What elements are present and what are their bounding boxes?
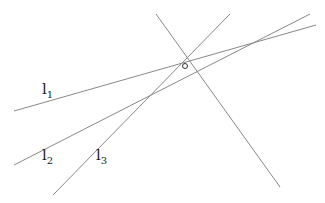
label-l2-sub: 2 xyxy=(47,155,53,166)
point-marker xyxy=(183,64,188,69)
line-l3 xyxy=(53,14,230,195)
line-l1 xyxy=(14,25,316,111)
label-l2: l2 xyxy=(42,146,53,166)
diagram-canvas: l1 l2 l3 xyxy=(0,0,325,203)
label-l3: l3 xyxy=(96,146,107,166)
label-l3-sub: 3 xyxy=(101,155,107,166)
line-l4 xyxy=(156,14,280,187)
label-l1-sub: 1 xyxy=(47,89,53,100)
label-l1: l1 xyxy=(42,80,53,100)
line-l2 xyxy=(14,14,310,165)
lines-svg xyxy=(0,0,325,203)
